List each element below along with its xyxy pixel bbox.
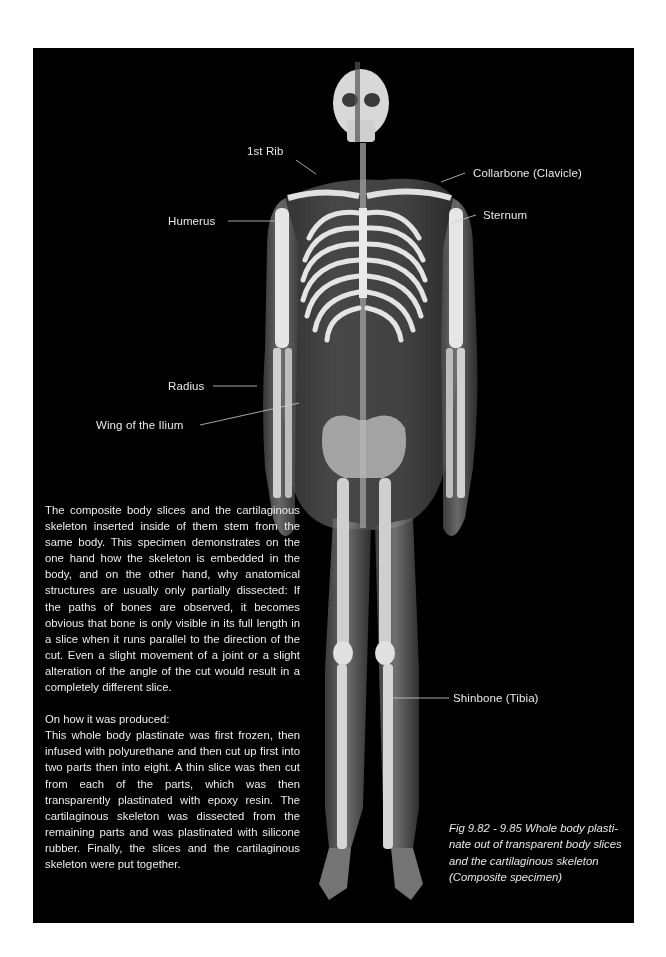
skull xyxy=(333,62,389,142)
production-heading: On how it was produced: xyxy=(45,713,169,725)
label-radius: Radius xyxy=(168,379,204,393)
label-1st-rib: 1st Rib xyxy=(247,144,284,158)
pelvis xyxy=(322,416,406,479)
paragraph-intro: The composite body slices and the cartil… xyxy=(45,502,300,695)
label-sternum: Sternum xyxy=(483,208,527,222)
paragraph-production: On how it was produced: This whole body … xyxy=(45,711,300,872)
figure-caption: Fig 9.82 - 9.85 Whole body plasti­nate o… xyxy=(449,820,629,886)
label-shinbone: Shinbone (Tibia) xyxy=(453,691,539,705)
label-wing-of-ilium: Wing of the Ilium xyxy=(96,418,183,432)
figure-frame: 1st Rib Collarbone (Clavicle) Humerus St… xyxy=(33,48,634,923)
body-text: The composite body slices and the cartil… xyxy=(45,502,300,872)
label-collarbone: Collarbone (Clavicle) xyxy=(473,166,582,180)
production-text: This whole body plastinate was first fro… xyxy=(45,729,300,870)
label-humerus: Humerus xyxy=(168,214,215,228)
